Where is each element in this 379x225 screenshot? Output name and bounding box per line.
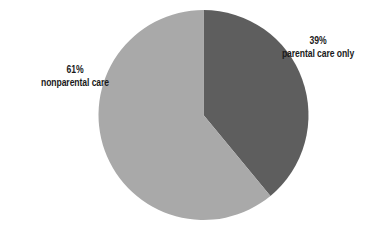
parental-care-percent: 39% xyxy=(269,34,367,47)
parental-care-label: 39% parental care only xyxy=(269,34,367,60)
nonparental-care-label: 61% nonparental care xyxy=(30,63,120,89)
nonparental-care-percent: 61% xyxy=(30,63,120,76)
parental-care-text: parental care only xyxy=(269,47,367,60)
nonparental-care-text: nonparental care xyxy=(30,76,120,89)
